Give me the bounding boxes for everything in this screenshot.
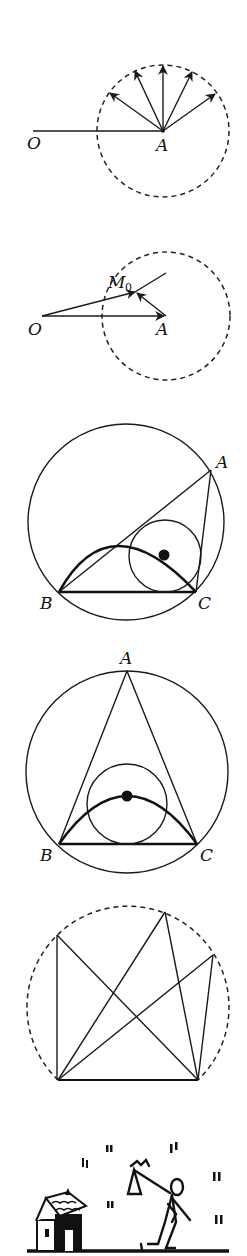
vector-om0 — [42, 292, 135, 316]
label-a: A — [154, 319, 168, 339]
figure-tangent-m0: O A M 0 — [28, 252, 230, 380]
figure-vectors-from-a: O A — [27, 65, 229, 197]
figure-triangle-incircle-1: B C A — [28, 424, 228, 620]
vector-arrow — [163, 94, 215, 131]
chord — [58, 912, 165, 1080]
side-ab — [59, 671, 127, 844]
locus-arc — [59, 796, 197, 844]
chord — [57, 935, 198, 1080]
vector-arrow — [163, 72, 192, 131]
incenter-point — [122, 791, 133, 802]
label-c: C — [200, 845, 213, 865]
label-m-subscript: 0 — [125, 281, 132, 294]
incenter-point — [159, 550, 170, 561]
vector-arrow — [110, 93, 163, 131]
chord — [58, 955, 213, 1080]
label-a: A — [154, 135, 168, 155]
label-m: M — [107, 272, 126, 292]
label-a: A — [214, 452, 228, 472]
locus-arc — [59, 546, 196, 592]
point-a — [161, 129, 165, 133]
tangent-extension — [135, 273, 166, 292]
figure-cartoon-traveler — [27, 1142, 229, 1251]
label-o: O — [28, 319, 42, 339]
label-c: C — [198, 593, 211, 613]
side-ac — [127, 671, 197, 844]
traveler-icon — [128, 1160, 190, 1250]
side-ba — [59, 470, 211, 592]
label-a: A — [118, 648, 132, 668]
chord — [198, 955, 213, 1080]
label-o: O — [27, 133, 41, 153]
figure-inscribed-lines — [27, 906, 229, 1080]
chord — [165, 912, 198, 1080]
page-canvas: O A O A M 0 B C A A B C — [0, 0, 247, 1256]
vector-am0 — [137, 293, 166, 316]
label-b: B — [39, 845, 53, 865]
house-icon — [36, 1188, 86, 1251]
vector-arrow — [135, 71, 163, 131]
label-b: B — [39, 593, 53, 613]
figure-triangle-incircle-2: A B C — [26, 648, 228, 873]
